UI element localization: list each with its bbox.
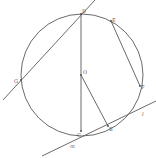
point-label-D: D bbox=[82, 9, 86, 14]
point-label-B: B bbox=[109, 127, 113, 132]
line-label-m: m bbox=[70, 144, 75, 149]
segment-EF bbox=[111, 21, 140, 86]
point-label-C: C bbox=[77, 133, 81, 138]
line-label-l: l bbox=[142, 112, 144, 117]
point-label-G: G bbox=[14, 79, 18, 84]
geometry-diagram: DEFGOCBml bbox=[0, 0, 156, 158]
point-label-E: E bbox=[112, 18, 116, 23]
point-O bbox=[80, 74, 82, 76]
segment-OB bbox=[81, 75, 108, 126]
point-label-F: F bbox=[141, 85, 144, 90]
point-label-O: O bbox=[83, 70, 87, 75]
point-G bbox=[20, 79, 22, 81]
